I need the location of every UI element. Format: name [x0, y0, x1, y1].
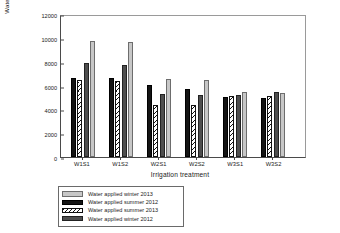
legend-label: Water applied winter 2012	[88, 216, 153, 222]
x-axis-title: Irrigation treatment	[60, 171, 300, 178]
y-axis-tick-label: 10000	[41, 37, 61, 43]
x-axis-tick-label: W2S2	[185, 161, 223, 171]
legend-swatch	[62, 208, 83, 213]
bar	[242, 92, 247, 157]
bar-group	[71, 16, 109, 157]
legend-label: Water applied winter 2013	[88, 191, 153, 197]
legend-item: Water applied winter 2013	[62, 190, 179, 198]
legend-swatch	[62, 216, 83, 221]
bar	[115, 81, 120, 157]
legend-swatch	[62, 200, 83, 205]
bar	[90, 41, 95, 157]
bar	[261, 98, 266, 157]
y-axis-title-main: Water applied (m	[3, 0, 10, 14]
bar	[223, 97, 228, 157]
legend-item: Water applied summer 2013	[62, 206, 179, 214]
plot-area: 020004000600080001000012000	[60, 15, 306, 158]
bar-group	[185, 16, 223, 157]
bar-group	[261, 16, 299, 157]
x-axis-tick-label: W2S1	[147, 161, 185, 171]
legend-label: Water applied summer 2012	[88, 199, 158, 205]
bar	[267, 96, 272, 157]
bar	[191, 105, 196, 157]
x-axis-tick-mark	[234, 157, 235, 160]
bar	[166, 79, 171, 157]
bar	[109, 78, 114, 157]
x-axis-tick-mark	[196, 157, 197, 160]
y-axis-tick-label: 6000	[45, 85, 61, 91]
legend-label: Water applied summer 2013	[88, 207, 158, 213]
bar-group	[109, 16, 147, 157]
x-axis-tick-labels: W1S1W1S2W2S1W2S2W3S1W3S2	[60, 161, 306, 171]
x-axis-tick-label: W3S1	[223, 161, 261, 171]
x-axis-tick-mark	[158, 157, 159, 160]
bar-groups	[61, 16, 305, 157]
x-axis-tick-mark	[82, 157, 83, 160]
bar	[280, 93, 285, 157]
y-axis-tick-label: 2000	[45, 132, 61, 138]
bar	[84, 63, 89, 157]
y-axis-tick-label: 4000	[45, 108, 61, 114]
bar	[122, 65, 127, 157]
bar	[160, 94, 165, 157]
bar	[185, 89, 190, 157]
bar	[77, 80, 82, 157]
bar-chart: Water applied (m3/ha) 020004000600080001…	[0, 0, 340, 233]
y-axis-title: Water applied (m3/ha)	[2, 0, 14, 38]
y-axis-tick-mark	[61, 159, 64, 160]
bar	[274, 92, 279, 157]
x-axis-tick-mark	[120, 157, 121, 160]
y-axis-tick-label: 8000	[45, 61, 61, 67]
y-axis-tick-label: 12000	[41, 13, 61, 19]
bar	[147, 85, 152, 157]
bar-group	[147, 16, 185, 157]
x-axis-tick-label: W1S1	[70, 161, 108, 171]
legend-swatch	[62, 191, 83, 196]
legend-item: Water applied summer 2012	[62, 198, 179, 206]
x-axis-tick-label: W3S2	[262, 161, 300, 171]
bar	[229, 96, 234, 157]
bar-group	[223, 16, 261, 157]
bar	[128, 42, 133, 157]
x-axis-tick-label: W1S2	[108, 161, 146, 171]
x-axis-tick-mark	[272, 157, 273, 160]
bar	[71, 78, 76, 157]
bar	[236, 95, 241, 157]
bar	[153, 105, 158, 157]
bar	[198, 95, 203, 157]
bar	[204, 80, 209, 157]
chart-legend: Water applied winter 2013Water applied s…	[58, 186, 184, 227]
legend-item: Water applied winter 2012	[62, 215, 179, 223]
